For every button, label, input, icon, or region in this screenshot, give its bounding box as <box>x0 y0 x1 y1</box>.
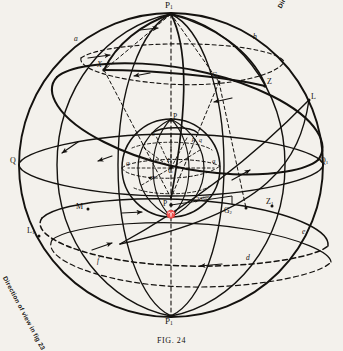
point-label-E: E <box>167 157 171 164</box>
point-label-P1-north: P1 <box>165 1 173 10</box>
point-label-a-right: a <box>212 158 216 165</box>
node-dots <box>38 12 311 317</box>
point-label-P1-south: P1 <box>165 317 173 326</box>
point-label-M: M <box>76 203 83 211</box>
point-label-Q1: Q1 <box>320 157 328 165</box>
point-label-Q: Q <box>10 157 16 165</box>
point-label-G1: G1 <box>212 72 220 80</box>
point-label-e: e <box>302 228 305 236</box>
point-label-f: f <box>97 257 99 265</box>
point-label-C: C <box>168 167 173 175</box>
point-label-L1: L1 <box>27 227 34 235</box>
sub-q1: 1 <box>326 160 328 165</box>
obliquity-angle-label: 23½° <box>196 196 210 203</box>
point-label-G2: G2 <box>224 207 232 215</box>
point-label-L: L <box>311 93 316 101</box>
point-label-Z: Z <box>267 78 272 86</box>
sub-l1: 1 <box>32 230 34 235</box>
point-label-a: a <box>74 35 78 43</box>
sub-g2: 2 <box>229 210 231 215</box>
sub-z1: 1 <box>271 201 273 206</box>
point-label-b: b <box>253 33 257 41</box>
figure-caption: FIG. 24 <box>0 336 343 345</box>
aries-symbol: ♈ <box>166 211 176 219</box>
observer-meridian <box>171 14 265 198</box>
point-label-q-inner: q <box>199 137 202 143</box>
point-label-X: X <box>97 61 102 69</box>
sub-1b: 1 <box>170 320 173 326</box>
point-label-x-inner: x <box>152 131 155 137</box>
sub-g1: 1 <box>217 75 219 80</box>
sub-1: 1 <box>170 4 173 10</box>
point-label-p-inner: p <box>192 136 195 142</box>
point-label-Z1: Z1 <box>266 198 273 206</box>
point-label-d: d <box>246 254 250 262</box>
point-label-m: m <box>150 174 155 181</box>
point-label-P-lower: P <box>163 200 167 208</box>
point-label-q-left: q <box>126 160 130 167</box>
diagram-strokes <box>19 13 331 317</box>
point-label-p-upper: P <box>173 113 177 121</box>
